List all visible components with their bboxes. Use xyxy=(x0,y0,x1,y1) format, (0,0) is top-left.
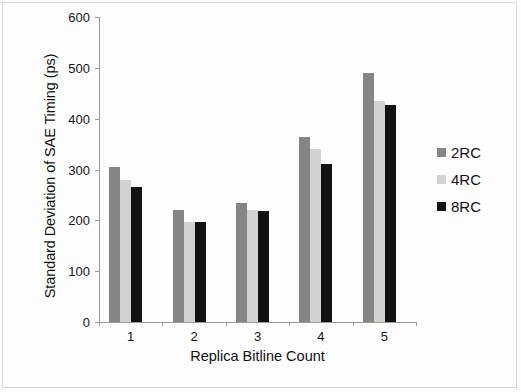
bar-2RC-3 xyxy=(236,203,247,322)
x-axis-line xyxy=(99,322,416,323)
y-axis-tick-mark xyxy=(95,119,99,120)
bar-8RC-3 xyxy=(258,211,269,322)
legend-item: 2RC xyxy=(437,139,481,166)
y-axis-tick-label: 300 xyxy=(50,162,99,177)
chart-legend: 2RC4RC8RC xyxy=(437,139,481,220)
y-axis-tick-label: 500 xyxy=(50,60,99,75)
bar-2RC-5 xyxy=(363,73,374,322)
y-axis-tick-label: 100 xyxy=(50,264,99,279)
chart-figure: Standard Deviation of SAE Timing (ps) 01… xyxy=(0,0,521,392)
legend-swatch-icon xyxy=(437,148,446,157)
bar-8RC-1 xyxy=(131,187,142,322)
y-axis-tick-label: 200 xyxy=(50,213,99,228)
y-axis-line xyxy=(99,17,100,323)
bar-8RC-5 xyxy=(385,105,396,322)
x-axis-tick-mark xyxy=(289,322,290,326)
legend-label: 8RC xyxy=(451,199,481,214)
legend-item: 8RC xyxy=(437,193,481,220)
bar-8RC-2 xyxy=(195,222,206,322)
bar-4RC-1 xyxy=(120,180,131,322)
legend-swatch-icon xyxy=(437,175,446,184)
y-axis-tick-label: 400 xyxy=(50,111,99,126)
x-axis-tick-mark xyxy=(416,322,417,326)
bar-4RC-4 xyxy=(310,149,321,322)
bar-2RC-2 xyxy=(173,210,184,322)
y-axis-tick-mark xyxy=(95,170,99,171)
x-axis-tick-mark xyxy=(99,322,100,326)
x-axis-tick-label: 4 xyxy=(296,329,346,344)
bar-8RC-4 xyxy=(321,164,332,322)
y-axis-tick-mark xyxy=(95,17,99,18)
x-axis-tick-mark xyxy=(353,322,354,326)
x-axis-tick-label: 3 xyxy=(233,329,283,344)
legend-item: 4RC xyxy=(437,166,481,193)
x-axis-title: Replica Bitline Count xyxy=(99,348,416,364)
x-axis-tick-label: 5 xyxy=(359,329,409,344)
bar-group xyxy=(363,17,396,322)
bar-group xyxy=(299,17,332,322)
x-axis-tick-label: 1 xyxy=(106,329,156,344)
bar-4RC-5 xyxy=(374,101,385,322)
y-axis-tick-mark xyxy=(95,220,99,221)
bar-2RC-4 xyxy=(299,137,310,322)
y-axis-tick-label: 0 xyxy=(50,315,99,330)
bar-2RC-1 xyxy=(109,167,120,322)
y-axis-tick-label: 600 xyxy=(50,10,99,25)
y-axis-tick-mark xyxy=(95,68,99,69)
bar-4RC-3 xyxy=(247,210,258,322)
legend-label: 2RC xyxy=(451,145,481,160)
bar-group xyxy=(109,17,142,322)
legend-label: 4RC xyxy=(451,172,481,187)
bar-group xyxy=(173,17,206,322)
legend-swatch-icon xyxy=(437,202,446,211)
x-axis-tick-label: 2 xyxy=(169,329,219,344)
bar-4RC-2 xyxy=(184,222,195,322)
bar-group xyxy=(236,17,269,322)
y-axis-tick-mark xyxy=(95,271,99,272)
x-axis-tick-mark xyxy=(162,322,163,326)
x-axis-tick-mark xyxy=(226,322,227,326)
plot-area: 010020030040050060012345 xyxy=(99,17,416,323)
